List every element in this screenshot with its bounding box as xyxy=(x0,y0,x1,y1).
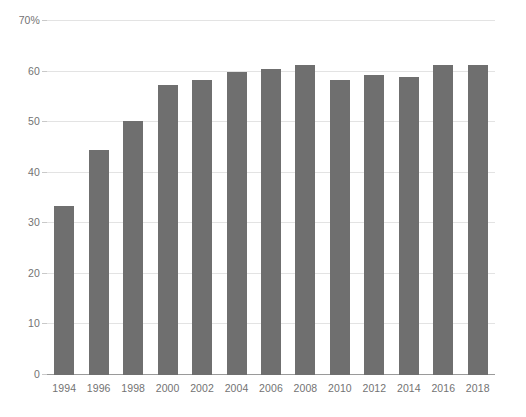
x-tick-label: 1994 xyxy=(52,382,76,394)
x-tick-slot: 2006 xyxy=(254,21,288,375)
y-tick-label: 20 xyxy=(28,267,40,279)
x-tick-label: 2014 xyxy=(397,382,421,394)
x-tick-label: 2002 xyxy=(190,382,214,394)
y-tick-label: 30 xyxy=(28,216,40,228)
x-tick-slot: 1996 xyxy=(81,21,115,375)
x-tick-slot: 2018 xyxy=(461,21,495,375)
x-tick-slot: 2002 xyxy=(185,21,219,375)
x-tick-slot: 2012 xyxy=(357,21,391,375)
y-tick-label: 40 xyxy=(28,166,40,178)
x-tick-slot: 2000 xyxy=(150,21,184,375)
x-tick-label: 2006 xyxy=(259,382,283,394)
x-tick-slot: 1994 xyxy=(47,21,81,375)
x-tick-slot: 2010 xyxy=(323,21,357,375)
y-tick-label: 0 xyxy=(34,368,40,380)
x-tick-label: 2004 xyxy=(225,382,249,394)
y-tick-label: 70% xyxy=(19,14,40,26)
bar-chart: 010203040506070% 19941996199820002002200… xyxy=(0,0,526,417)
x-tick-slot: 2016 xyxy=(426,21,460,375)
x-tick-label: 2012 xyxy=(362,382,386,394)
plot-area: 010203040506070% 19941996199820002002200… xyxy=(47,21,495,375)
x-tick-slot: 1998 xyxy=(116,21,150,375)
x-tick-label: 1996 xyxy=(87,382,111,394)
y-tick-label: 10 xyxy=(28,317,40,329)
x-tick-slot: 2008 xyxy=(288,21,322,375)
x-tick-label: 2000 xyxy=(156,382,180,394)
x-tick-slot: 2014 xyxy=(392,21,426,375)
x-tick-label: 1998 xyxy=(121,382,145,394)
x-tick-slot: 2004 xyxy=(219,21,253,375)
y-tick-label: 60 xyxy=(28,65,40,77)
x-tick-label: 2008 xyxy=(294,382,318,394)
y-tick-label: 50 xyxy=(28,115,40,127)
x-tick-label: 2018 xyxy=(466,382,490,394)
x-tick-label: 2010 xyxy=(328,382,352,394)
x-tick-label: 2016 xyxy=(431,382,455,394)
